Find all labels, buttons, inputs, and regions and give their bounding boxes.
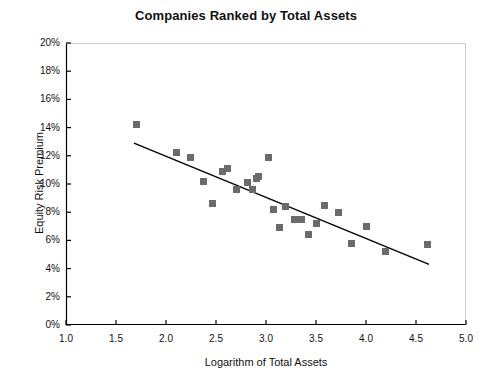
scatter-point xyxy=(313,220,320,227)
x-tick-label: 5.0 xyxy=(446,334,486,344)
scatter-point xyxy=(305,231,312,238)
x-tick-label: 3.0 xyxy=(246,334,286,344)
scatter-point xyxy=(363,223,370,230)
scatter-point xyxy=(291,216,298,223)
y-tick-label: 14% xyxy=(16,123,60,133)
scatter-points-layer xyxy=(66,43,466,325)
scatter-point xyxy=(244,179,251,186)
x-tick-label: 3.5 xyxy=(296,334,336,344)
x-tick-label: 4.5 xyxy=(396,334,436,344)
scatter-point xyxy=(282,203,289,210)
scatter-point xyxy=(187,154,194,161)
y-tick-label: 16% xyxy=(16,94,60,104)
scatter-point xyxy=(335,209,342,216)
x-tick-label: 1.0 xyxy=(46,334,86,344)
x-tick-label: 2.0 xyxy=(146,334,186,344)
scatter-point xyxy=(298,216,305,223)
scatter-point xyxy=(424,241,431,248)
y-tick-label: 12% xyxy=(16,151,60,161)
y-tick-label: 20% xyxy=(16,38,60,48)
scatter-point xyxy=(209,200,216,207)
y-tick-label: 10% xyxy=(16,179,60,189)
chart-container: Companies Ranked by Total Assets Equity … xyxy=(0,0,492,381)
y-tick-label: 6% xyxy=(16,235,60,245)
scatter-point xyxy=(233,186,240,193)
scatter-point xyxy=(348,240,355,247)
scatter-point xyxy=(276,224,283,231)
x-tick-label: 1.5 xyxy=(96,334,136,344)
scatter-point xyxy=(321,202,328,209)
scatter-point xyxy=(224,165,231,172)
scatter-point xyxy=(382,248,389,255)
scatter-point xyxy=(255,173,262,180)
scatter-point xyxy=(265,154,272,161)
y-tick-label: 18% xyxy=(16,66,60,76)
scatter-point xyxy=(133,121,140,128)
y-tick-label: 4% xyxy=(16,264,60,274)
scatter-point xyxy=(249,186,256,193)
y-tick-label: 0% xyxy=(16,320,60,330)
y-tick-label: 2% xyxy=(16,292,60,302)
x-tick-label: 2.5 xyxy=(196,334,236,344)
scatter-point xyxy=(200,178,207,185)
scatter-point xyxy=(270,206,277,213)
y-tick-label: 8% xyxy=(16,207,60,217)
scatter-point xyxy=(173,149,180,156)
x-tick-label: 4.0 xyxy=(346,334,386,344)
